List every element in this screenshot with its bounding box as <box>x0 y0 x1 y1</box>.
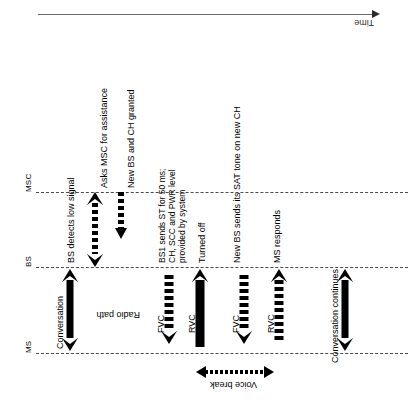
time-axis-label: Time <box>354 18 374 28</box>
lane-label-ms: MS <box>24 341 33 353</box>
annotation-conversation-continues: Conversation continues <box>330 269 340 363</box>
channel-label-rvc-2: RVC <box>266 314 276 333</box>
lane-line-ms <box>36 353 408 354</box>
annotation-conversation: Conversation <box>55 296 65 349</box>
annotation-voice-break: Voice break <box>210 380 257 390</box>
arrowhead-down-notch <box>87 254 103 260</box>
channel-label-rvc-1: RVC <box>187 314 197 333</box>
arrow-shaft <box>92 203 98 256</box>
arrow-shaft <box>342 280 349 340</box>
time-axis-line <box>38 14 374 15</box>
annotation-new-bs-sat-tone: New BS sends its SAT tone on new CH <box>232 106 242 263</box>
annotation-asks-msc-for-assistance: Asks MSC for assistance <box>99 88 109 188</box>
arrow-voice-break <box>196 366 274 378</box>
arrow-fvc-1 <box>160 275 178 353</box>
arrow-shaft <box>67 280 74 340</box>
arrow-shaft <box>205 370 265 374</box>
lane-label-msc: MSC <box>24 174 33 192</box>
arrowhead-right <box>264 366 274 378</box>
handoff-sequence-diagram: Time MSC BS MS BS detects low signal Ask… <box>0 0 418 412</box>
lane-line-bs <box>36 267 408 268</box>
arrowhead-down <box>115 228 127 239</box>
time-axis-arrowhead <box>372 10 380 18</box>
arrow-rvc-1 <box>191 269 209 347</box>
arrow-new-bs-and-ch-granted <box>112 192 130 246</box>
arrow-fvc-2 <box>235 275 253 353</box>
annotation-turned-off: Turned off <box>197 222 207 263</box>
channel-label-fvc-2: FVC <box>231 315 241 333</box>
annotation-bs1-sends-st: BS1 sends ST for 50 ms; CH, SCC and PWR … <box>157 169 187 263</box>
arrow-rvc-2 <box>270 269 288 353</box>
arrow-asks-msc-for-assistance <box>86 192 104 267</box>
annotation-new-bs-and-ch-granted: New BS and CH granted <box>126 89 136 188</box>
lane-label-bs: BS <box>24 256 33 267</box>
annotation-ms-responds: MS responds <box>272 210 282 263</box>
channel-label-fvc-1: FVC <box>156 315 166 333</box>
annotation-radio-path: Radio path <box>96 310 140 320</box>
arrow-shaft <box>118 192 124 230</box>
annotation-bs-detects-low-signal: BS detects low signal <box>66 177 76 263</box>
